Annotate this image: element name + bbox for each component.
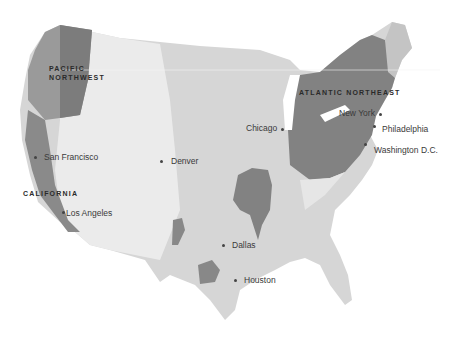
- city-marker-los-angeles: [62, 211, 65, 214]
- city-marker-philadelphia: [373, 125, 376, 128]
- city-marker-chicago: [281, 128, 284, 131]
- city-label-dallas: Dallas: [232, 241, 256, 250]
- us-map: [0, 0, 458, 338]
- city-label-houston: Houston: [244, 276, 276, 285]
- region-label-california: CALIFORNIA: [23, 190, 78, 199]
- city-label-san-francisco: San Francisco: [44, 153, 98, 162]
- city-marker-dallas: [222, 244, 225, 247]
- city-marker-washington-dc: [364, 143, 367, 146]
- region-label-atlantic-northeast: ATLANTIC NORTHEAST: [299, 89, 401, 98]
- city-label-new-york: New York: [339, 109, 375, 118]
- city-label-philadelphia: Philadelphia: [382, 125, 428, 134]
- city-label-chicago: Chicago: [246, 124, 277, 133]
- region-label-pacific-northwest: PACIFIC NORTHWEST: [49, 65, 105, 83]
- city-label-washington-dc: Washington D.C.: [374, 146, 438, 155]
- city-marker-new-york: [379, 113, 382, 116]
- city-label-los-angeles: Los Angeles: [66, 209, 112, 218]
- city-marker-houston: [234, 279, 237, 282]
- city-marker-san-francisco: [34, 156, 37, 159]
- city-marker-denver: [160, 160, 163, 163]
- city-label-denver: Denver: [171, 157, 198, 166]
